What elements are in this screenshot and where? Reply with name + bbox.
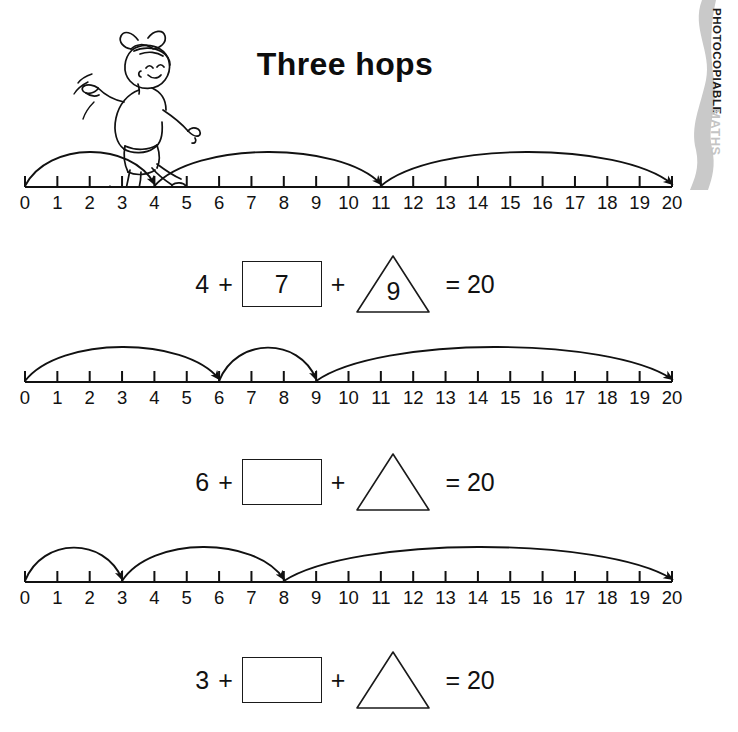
numberline-tick-label: 13 <box>435 587 456 608</box>
answer-box-square[interactable] <box>242 459 322 505</box>
numberline-tick-label: 9 <box>311 587 321 608</box>
numberline-tick-label: 8 <box>279 192 289 213</box>
numberline-tick-label: 11 <box>371 192 390 213</box>
hop-arc <box>219 348 316 381</box>
equation-result: = 20 <box>445 270 494 299</box>
numberline-tick-label: 13 <box>435 192 456 213</box>
equation-row-exercise-2: 6 + + = 20 <box>0 450 690 514</box>
numberline-tick-label: 18 <box>597 587 618 608</box>
plus-sign-2: + <box>331 272 346 297</box>
answer-box-triangle[interactable] <box>354 649 432 711</box>
answer-box-square[interactable]: 7 <box>242 261 322 307</box>
numberline-tick-label: 17 <box>565 587 586 608</box>
photocopiable-label: PHOTOCOPIABLE <box>711 8 723 115</box>
equation-first-addend: 4 <box>195 272 209 297</box>
numberline-tick-label: 15 <box>500 192 521 213</box>
numberline-tick-label: 15 <box>500 387 521 408</box>
equation-result: = 20 <box>445 468 494 497</box>
numberline-tick-label: 20 <box>662 192 683 213</box>
numberline-tick-label: 4 <box>149 587 159 608</box>
numberline-tick-label: 7 <box>246 387 256 408</box>
numberline-tick-label: 3 <box>117 387 127 408</box>
hop-arc <box>154 152 380 186</box>
numberline-tick-label: 19 <box>629 192 650 213</box>
numberline-svg-3: 01234567891011121314151617181920 <box>0 520 738 615</box>
numberline-tick-label: 14 <box>468 587 489 608</box>
numberline-tick-label: 11 <box>371 587 390 608</box>
numberline-tick-label: 3 <box>117 587 127 608</box>
numberline-tick-label: 7 <box>246 587 256 608</box>
numberline-exercise-1: 01234567891011121314151617181920 <box>0 125 738 220</box>
hop-arc <box>25 548 122 581</box>
numberline-tick-label: 2 <box>85 387 95 408</box>
numberline-tick-label: 12 <box>403 587 424 608</box>
equation-first-addend: 6 <box>195 470 209 495</box>
numberline-tick-label: 18 <box>597 387 618 408</box>
numberline-tick-label: 11 <box>371 387 390 408</box>
numberline-tick-label: 5 <box>182 587 192 608</box>
hop-arc <box>316 347 672 381</box>
numberline-tick-label: 14 <box>468 192 489 213</box>
triangle-shape-icon <box>354 649 432 711</box>
plus-sign-1: + <box>218 668 233 693</box>
numberline-tick-label: 19 <box>629 387 650 408</box>
numberline-tick-label: 4 <box>149 192 159 213</box>
numberline-tick-label: 6 <box>214 192 224 213</box>
answer-box-triangle[interactable]: 9 <box>354 253 432 315</box>
numberline-svg-2: 01234567891011121314151617181920 <box>0 320 738 415</box>
answer-box-triangle[interactable] <box>354 451 432 513</box>
numberline-tick-label: 10 <box>338 192 359 213</box>
numberline-exercise-3: 01234567891011121314151617181920 <box>0 520 738 615</box>
numberline-tick-label: 9 <box>311 192 321 213</box>
hop-arc <box>381 152 672 186</box>
numberline-tick-label: 12 <box>403 387 424 408</box>
numberline-tick-label: 15 <box>500 587 521 608</box>
numberline-tick-label: 0 <box>20 192 30 213</box>
plus-sign-1: + <box>218 272 233 297</box>
numberline-tick-label: 16 <box>532 192 553 213</box>
numberline-tick-label: 2 <box>85 192 95 213</box>
numberline-tick-label: 1 <box>52 387 62 408</box>
numberline-tick-label: 14 <box>468 387 489 408</box>
numberline-tick-label: 19 <box>629 587 650 608</box>
numberline-tick-label: 5 <box>182 387 192 408</box>
numberline-tick-label: 7 <box>246 192 256 213</box>
equation-row-exercise-1: 4 + 7 + 9 = 20 <box>0 252 690 316</box>
triangle-value: 9 <box>354 279 432 304</box>
numberline-tick-label: 2 <box>85 587 95 608</box>
triangle-shape-icon <box>354 451 432 513</box>
numberline-tick-label: 0 <box>20 387 30 408</box>
numberline-tick-label: 5 <box>182 192 192 213</box>
numberline-tick-label: 17 <box>565 387 586 408</box>
numberline-tick-label: 20 <box>662 587 683 608</box>
hop-arc <box>122 547 284 581</box>
numberline-tick-label: 10 <box>338 587 359 608</box>
numberline-tick-label: 17 <box>565 192 586 213</box>
numberline-tick-label: 1 <box>52 192 62 213</box>
plus-sign-1: + <box>218 470 233 495</box>
numberline-tick-label: 6 <box>214 587 224 608</box>
numberline-exercise-2: 01234567891011121314151617181920 <box>0 320 738 415</box>
numberline-tick-label: 8 <box>279 387 289 408</box>
plus-sign-2: + <box>331 470 346 495</box>
numberline-tick-label: 10 <box>338 387 359 408</box>
numberline-tick-label: 3 <box>117 192 127 213</box>
answer-box-square[interactable] <box>242 657 322 703</box>
numberline-svg-1: 01234567891011121314151617181920 <box>0 125 738 220</box>
numberline-tick-label: 4 <box>149 387 159 408</box>
numberline-tick-label: 0 <box>20 587 30 608</box>
numberline-tick-label: 16 <box>532 587 553 608</box>
numberline-tick-label: 6 <box>214 387 224 408</box>
numberline-tick-label: 12 <box>403 192 424 213</box>
numberline-tick-label: 20 <box>662 387 683 408</box>
plus-sign-2: + <box>331 668 346 693</box>
equation-row-exercise-3: 3 + + = 20 <box>0 648 690 712</box>
numberline-tick-label: 9 <box>311 387 321 408</box>
equation-result: = 20 <box>445 666 494 695</box>
numberline-tick-label: 16 <box>532 387 553 408</box>
numberline-tick-label: 18 <box>597 192 618 213</box>
numberline-tick-label: 13 <box>435 387 456 408</box>
equation-first-addend: 3 <box>195 668 209 693</box>
numberline-tick-label: 1 <box>52 587 62 608</box>
numberline-tick-label: 8 <box>279 587 289 608</box>
